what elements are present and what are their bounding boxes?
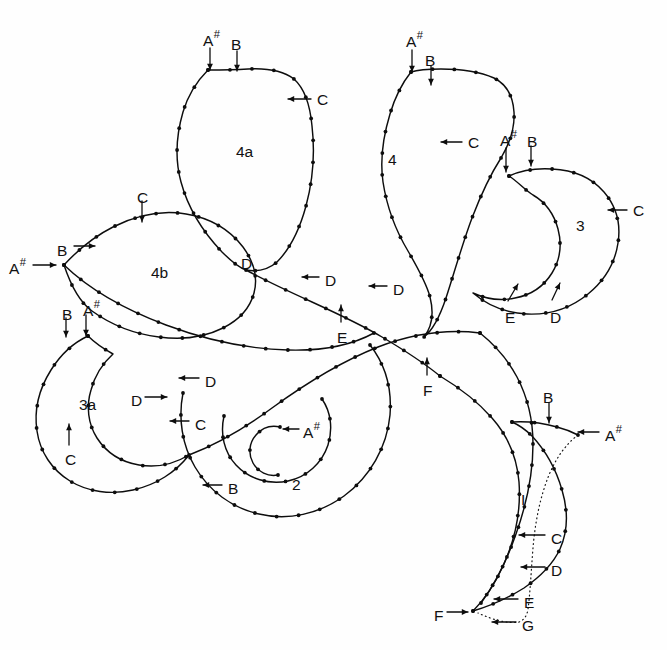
- landmark-dot: [355, 484, 359, 488]
- landmark-dot: [353, 355, 357, 359]
- lbl-centre-f: F: [423, 383, 433, 399]
- landmark-dot: [494, 345, 498, 349]
- landmark-dot: [386, 427, 390, 431]
- sharp-superscript: #: [214, 28, 220, 40]
- landmark-dot: [542, 281, 546, 285]
- landmark-dot: [113, 490, 117, 494]
- sharp-superscript: #: [511, 128, 517, 140]
- landmark-dot: [463, 235, 467, 239]
- landmark-dot: [197, 215, 201, 219]
- landmark-dot: [528, 432, 532, 436]
- landmark-dot: [600, 278, 604, 282]
- landmark-dot: [233, 262, 237, 266]
- landmark-dot: [311, 160, 315, 164]
- landmark-dot: [516, 471, 520, 475]
- landmark-dot: [550, 167, 554, 171]
- landmark-dot: [318, 507, 322, 511]
- arrow-head: [521, 564, 527, 570]
- landmark-dot: [528, 168, 532, 172]
- landmark-dot: [330, 345, 334, 349]
- landmark-dot: [119, 458, 123, 462]
- arrow-2-dleft: [145, 394, 167, 400]
- landmark-dot: [207, 445, 211, 449]
- arrow-2-dupper: [179, 375, 199, 381]
- outline-lobe-3a: [36, 336, 189, 492]
- landmark-dot: [474, 70, 478, 74]
- landmark-dot: [369, 467, 373, 471]
- sharp-superscript: #: [417, 29, 423, 41]
- lbl-4-asharp: A#: [406, 34, 423, 50]
- landmark-dot: [491, 583, 495, 587]
- landmark-dot: [557, 550, 561, 554]
- landmark-dot: [181, 435, 185, 439]
- landmark-dot: [560, 487, 564, 491]
- arrow-head: [528, 160, 534, 166]
- outline-tail-inner: [480, 333, 533, 603]
- landmark-dot: [337, 497, 341, 501]
- arrow-head: [338, 305, 344, 311]
- landmark-dot: [138, 331, 142, 335]
- landmark-dot: [180, 336, 184, 340]
- landmark-dot: [309, 117, 313, 121]
- landmark-dot: [324, 306, 328, 310]
- arrow-head: [494, 596, 500, 602]
- landmark-dot: [379, 447, 383, 451]
- landmark-dot: [287, 244, 291, 248]
- figure-canvas: 4a434b3a2 A#BCA#BCA#BCEDCBA#BA#CDDDEFDDC…: [0, 0, 667, 650]
- landmark-dot: [327, 438, 331, 442]
- arrow-4-dleft: [302, 274, 319, 280]
- landmark-dot: [264, 347, 268, 351]
- sharp-superscript: #: [314, 420, 320, 432]
- landmark-dot: [262, 412, 266, 416]
- arrow-head: [492, 619, 498, 625]
- landmark-dot: [102, 362, 106, 366]
- arrow-head: [283, 426, 289, 432]
- lbl-tail-asharp: A#: [605, 428, 622, 444]
- landmark-dot: [328, 417, 332, 421]
- landmark-dot: [113, 224, 117, 228]
- arrow-3-c: [608, 207, 627, 213]
- landmark-dot: [264, 278, 268, 282]
- landmark-dot: [133, 216, 137, 220]
- arrow-head: [441, 139, 447, 145]
- arrow-head: [369, 283, 375, 289]
- landmark-dot: [284, 288, 288, 292]
- arrow-head: [63, 331, 69, 337]
- arrow-tail-d: [521, 564, 545, 570]
- outline-main-sweep: [189, 332, 480, 455]
- arrow-tail-g: [492, 619, 516, 625]
- landmark-dot: [511, 450, 515, 454]
- landmark-dot: [156, 320, 160, 324]
- landmark-dot: [542, 201, 546, 205]
- region-2: 2: [292, 477, 301, 493]
- landmark-dot: [527, 484, 531, 488]
- landmark-dot: [284, 480, 288, 484]
- landmark-dot: [35, 426, 39, 430]
- landmark-dot: [206, 68, 210, 72]
- lbl-tail-c: C: [551, 531, 562, 547]
- lbl-3a-c: C: [65, 452, 76, 468]
- landmark-dot: [262, 479, 266, 483]
- landmark-dot: [319, 457, 323, 461]
- landmark-dot: [508, 94, 512, 98]
- landmark-dot: [388, 405, 392, 409]
- arrow-head: [170, 418, 176, 424]
- lbl-4a-asharp: A#: [203, 33, 220, 49]
- arrow-4b-asharp: [33, 262, 56, 268]
- landmark-dot: [524, 188, 528, 192]
- landmark-dot: [512, 115, 516, 119]
- landmark-dot: [70, 480, 74, 484]
- landmark-dot: [499, 156, 503, 160]
- landmark-dot: [501, 431, 505, 435]
- arrow-head: [428, 79, 434, 85]
- landmark-dot: [258, 430, 262, 434]
- landmark-dot: [183, 105, 187, 109]
- landmark-dot: [276, 473, 280, 477]
- landmark-dot: [500, 308, 504, 312]
- lbl-3a-b: B: [62, 307, 73, 323]
- landmark-dot: [525, 400, 529, 404]
- landmark-dot: [320, 397, 324, 401]
- lbl-2-asharp: A#: [303, 425, 320, 441]
- landmark-dot: [316, 376, 320, 380]
- landmark-dot: [203, 230, 207, 234]
